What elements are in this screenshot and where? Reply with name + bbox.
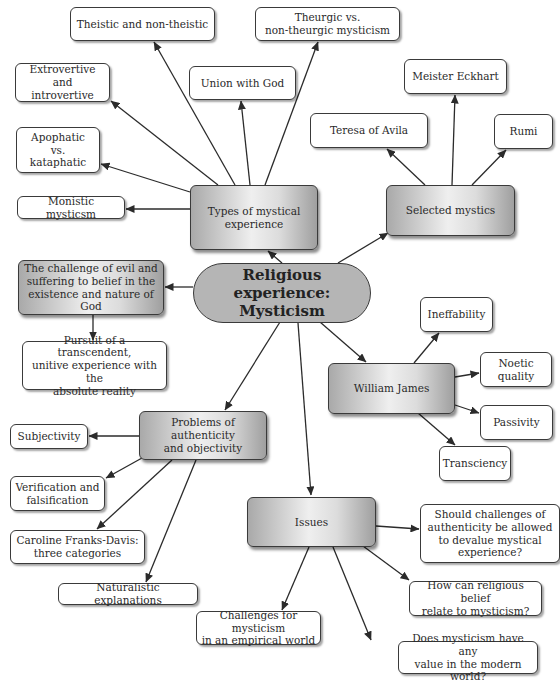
node-passivity: Passivity (480, 405, 553, 440)
node-union: Union with God (189, 66, 296, 100)
arrow-problems-to-naturalistic (146, 460, 196, 582)
arrow-types-to-theistic (154, 42, 235, 185)
arrow-issues-to-doesvalue (333, 547, 371, 640)
node-transciency: Transciency (439, 446, 511, 481)
node-subjectivity: Subjectivity (10, 424, 88, 449)
arrow-issues-to-howcan (363, 546, 409, 580)
arrow-types-to-apophatic (101, 164, 190, 192)
arrow-james-to-noetic (455, 373, 479, 377)
arrow-central-to-types (268, 251, 282, 263)
node-howcan: How can religious belief relate to mysti… (409, 581, 542, 616)
node-teresa: Teresa of Avila (310, 113, 428, 148)
arrow-selected-to-teresa (387, 149, 425, 185)
arrow-james-to-passivity (455, 405, 479, 413)
node-apophatic: Apophatic vs. kataphatic (16, 127, 100, 173)
arrow-james-to-ineffability (414, 333, 439, 363)
concept-map-canvas: Religious experience: Mysticism Types of… (0, 0, 560, 691)
arrow-james-to-transciency (418, 413, 455, 445)
arrow-central-to-problems (225, 322, 280, 410)
node-extrovertive: Extrovertive and introvertive (15, 63, 110, 102)
arrow-issues-to-challenges (282, 547, 309, 610)
arrow-central-to-selected (338, 233, 388, 263)
node-evil: The challenge of evil and suffering to b… (18, 260, 164, 315)
node-doesvalue: Does mysticism have any value in the mod… (398, 641, 538, 674)
arrow-central-to-james (320, 322, 366, 362)
arrow-selected-to-eckhart (452, 95, 455, 185)
node-theurgic: Theurgic vs. non-theurgic mysticism (255, 7, 400, 41)
node-selected: Selected mystics (386, 185, 515, 236)
node-issues: Issues (247, 497, 376, 547)
node-james: William James (328, 363, 455, 414)
node-monistic: Monistic mysticsm (17, 196, 125, 219)
arrow-issues-to-should (376, 526, 419, 529)
arrow-central-to-issues (298, 323, 311, 495)
node-caroline: Caroline Franks-Davis: three categories (10, 530, 145, 564)
arrow-problems-to-verification (106, 458, 142, 478)
node-types: Types of mystical experience (190, 185, 318, 250)
node-theistic: Theistic and non-theistic (70, 7, 215, 41)
node-should: Should challenges of authenticity be all… (420, 504, 560, 563)
node-pursuit: Pursuit of a transcendent, unitive exper… (22, 341, 167, 390)
node-ineffability: Ineffability (420, 297, 493, 332)
arrow-types-to-theurgic (265, 42, 318, 185)
node-naturalistic: Naturalistic explanations (58, 583, 198, 605)
node-challenges: Challenges for mysticism in an empirical… (196, 611, 321, 645)
arrow-problems-to-caroline (97, 460, 172, 529)
node-noetic: Noetic quality (480, 352, 552, 387)
central-topic-node: Religious experience: Mysticism (193, 263, 371, 323)
node-problems: Problems of authenticity and objectivity (139, 411, 267, 460)
node-rumi: Rumi (494, 114, 553, 149)
arrow-selected-to-rumi (472, 150, 506, 185)
arrow-types-to-union (241, 101, 250, 185)
node-verification: Verification and falsification (10, 476, 105, 511)
node-eckhart: Meister Eckhart (404, 59, 507, 94)
